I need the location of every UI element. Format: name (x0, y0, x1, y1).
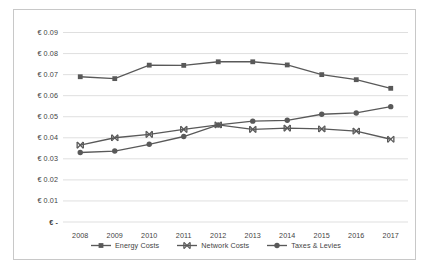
legend-item[interactable]: Taxes & Levies (266, 241, 341, 250)
y-axis-tick-label: € 0.02 (16, 175, 58, 184)
data-point-circle (250, 118, 255, 123)
y-axis-tick-label: € 0.07 (16, 70, 58, 79)
x-axis-tick-label: 2017 (371, 231, 411, 240)
y-axis-tick-label: € 0.09 (16, 28, 58, 37)
data-point-square (147, 63, 152, 68)
y-axis-tick-label: € 0.01 (16, 196, 58, 205)
legend-item[interactable]: Network Costs (176, 241, 249, 250)
data-point-circle (319, 112, 324, 117)
data-point-square (354, 77, 359, 82)
y-axis-tick-label: € 0.05 (16, 112, 58, 121)
data-point-circle (216, 122, 221, 127)
series-layer (77, 59, 394, 155)
legend-label: Network Costs (201, 241, 249, 250)
data-point-square (285, 63, 290, 68)
legend-label: Taxes & Levies (291, 241, 341, 250)
data-point-square (181, 63, 186, 68)
data-point-circle (275, 243, 280, 248)
y-axis-tick-label: € 0.04 (16, 133, 58, 142)
data-point-circle (147, 142, 152, 147)
data-point-circle (285, 118, 290, 123)
data-point-square (250, 59, 255, 64)
series-network-costs (77, 122, 394, 148)
series-line (80, 107, 391, 153)
data-point-circle (181, 134, 186, 139)
data-point-circle (354, 110, 359, 115)
legend-swatch-square-icon (90, 241, 112, 250)
series-taxes-levies (78, 104, 394, 155)
legend-item[interactable]: Energy Costs (90, 241, 159, 250)
line-chart-plot (14, 10, 417, 261)
data-point-square (216, 59, 221, 64)
data-point-square (388, 86, 393, 91)
y-axis-tick-label: € 0.08 (16, 49, 58, 58)
data-point-square (112, 76, 117, 81)
y-axis-tick-label: € 0.06 (16, 91, 58, 100)
chart-legend: Energy CostsNetwork CostsTaxes & Levies (14, 241, 417, 250)
chart-container: € 0.09€ 0.08€ 0.07€ 0.06€ 0.05€ 0.04€ 0.… (13, 9, 416, 260)
data-point-square (319, 72, 324, 77)
data-point-circle (112, 148, 117, 153)
legend-swatch-cross-icon (176, 241, 198, 250)
data-point-square (78, 74, 83, 79)
legend-label: Energy Costs (115, 241, 159, 250)
legend-swatch-circle-icon (266, 241, 288, 250)
data-point-circle (388, 104, 393, 109)
data-point-square (99, 243, 104, 248)
data-point-circle (78, 150, 83, 155)
series-line (80, 125, 391, 145)
y-axis-tick-label: € - (16, 218, 58, 227)
y-axis-tick-label: € 0.03 (16, 154, 58, 163)
